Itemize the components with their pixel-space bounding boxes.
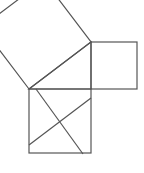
- hypotenuse-square: [0, 0, 91, 89]
- pythagoras-diagram: [0, 0, 144, 173]
- right-triangle: [29, 42, 91, 89]
- right-square: [91, 42, 137, 89]
- bottom-square-line-1: [29, 98, 91, 145]
